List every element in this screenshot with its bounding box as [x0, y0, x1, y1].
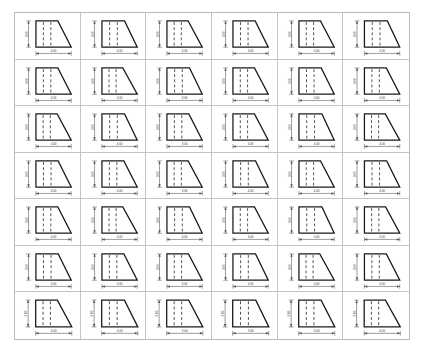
- trapezoid-outline: [299, 68, 334, 94]
- figure-cell: 3.004.00: [212, 246, 278, 293]
- height-dimension-label: 3.00: [156, 124, 160, 130]
- height-arrow-bottom: [92, 324, 95, 327]
- trapezoid-outline: [233, 207, 268, 233]
- height-arrow-top: [224, 301, 227, 304]
- width-arrow-right: [265, 52, 268, 55]
- figure-cell: 3.004.00: [343, 106, 409, 153]
- figure-cell: 3.004.00: [81, 153, 147, 200]
- height-arrow-top: [356, 21, 359, 24]
- trapezoid-drawing: 3.004.00: [81, 60, 146, 106]
- figure-cell: 3.004.00: [81, 13, 147, 60]
- figure-cell: 3.004.00: [278, 13, 344, 60]
- width-arrow-left: [233, 332, 236, 335]
- height-dimension-label: 3.00: [287, 217, 291, 223]
- trapezoid-drawing: 3.004.00: [212, 60, 277, 106]
- trapezoid-drawing: 3.003.00: [146, 106, 211, 152]
- height-dimension-label: 3.00: [287, 171, 291, 177]
- width-arrow-right: [200, 332, 203, 335]
- height-dimension-label: 3.00: [353, 264, 357, 270]
- trapezoid-outline: [102, 161, 137, 187]
- figure-cell: 3.004.00: [212, 199, 278, 246]
- width-dimension-label: 4.00: [248, 282, 254, 286]
- width-dimension-label: 4.00: [51, 235, 57, 239]
- width-arrow-left: [167, 99, 170, 102]
- width-arrow-left: [167, 238, 170, 241]
- width-arrow-left: [299, 285, 302, 288]
- trapezoid-outline: [365, 301, 401, 328]
- trapezoid-outline: [233, 301, 269, 328]
- height-arrow-top: [93, 254, 96, 257]
- height-arrow-bottom: [289, 324, 292, 327]
- width-arrow-right: [68, 99, 71, 102]
- trapezoid-outline: [365, 161, 400, 187]
- trapezoid-drawing: 3.004.00: [343, 153, 409, 199]
- height-arrow-bottom: [290, 91, 293, 94]
- trapezoid-outline: [36, 161, 71, 187]
- figure-cell: 3.004.00: [343, 292, 409, 339]
- height-dimension-label: 3.00: [155, 311, 159, 317]
- width-dimension-label: 4.00: [116, 189, 122, 193]
- width-arrow-right: [134, 99, 137, 102]
- height-arrow-top: [159, 161, 162, 164]
- width-dimension-label: 4.00: [116, 235, 122, 239]
- width-arrow-right: [68, 52, 71, 55]
- figure-cell: 3.004.00: [278, 199, 344, 246]
- width-dimension-label: 3.00: [182, 96, 188, 100]
- width-arrow-right: [68, 192, 71, 195]
- height-arrow-top: [290, 161, 293, 164]
- trapezoid-outline: [36, 207, 71, 233]
- height-arrow-bottom: [224, 184, 227, 187]
- height-arrow-top: [224, 21, 227, 24]
- width-dimension-label: 4.00: [248, 49, 254, 53]
- trapezoid-outline: [36, 254, 71, 280]
- width-dimension-label: 4.00: [313, 329, 319, 333]
- width-arrow-left: [233, 238, 236, 241]
- figure-cell: 3.003.00: [146, 153, 212, 200]
- width-dimension-label: 4.00: [116, 329, 122, 333]
- height-dimension-label: 3.00: [156, 217, 160, 223]
- trapezoid-outline: [36, 21, 71, 47]
- figure-cell: 3.004.00: [212, 106, 278, 153]
- trapezoid-outline: [298, 301, 334, 328]
- height-arrow-bottom: [356, 44, 359, 47]
- width-arrow-left: [36, 145, 39, 148]
- height-arrow-top: [356, 161, 359, 164]
- trapezoid-drawing: 3.003.00: [146, 292, 211, 339]
- trapezoid-drawing: 3.003.00: [212, 292, 277, 339]
- width-arrow-left: [299, 99, 302, 102]
- figure-cell: 3.004.00: [15, 199, 81, 246]
- width-arrow-left: [36, 285, 39, 288]
- height-arrow-top: [93, 207, 96, 210]
- width-arrow-right: [331, 145, 334, 148]
- trapezoid-outline: [233, 254, 268, 280]
- width-arrow-left: [365, 285, 368, 288]
- width-arrow-right: [331, 192, 334, 195]
- width-dimension-label: 4.00: [313, 235, 319, 239]
- width-arrow-right: [200, 52, 203, 55]
- trapezoid-drawing: 3.004.00: [343, 199, 409, 245]
- height-dimension-label: 3.00: [222, 31, 226, 37]
- width-dimension-label: 4.00: [182, 49, 188, 53]
- height-arrow-top: [356, 207, 359, 210]
- trapezoid-drawing: 3.004.00: [81, 246, 146, 292]
- width-dimension-label: 4.00: [51, 282, 57, 286]
- width-dimension-label: 4.00: [116, 282, 122, 286]
- height-dimension-label: 3.00: [25, 264, 29, 270]
- height-arrow-top: [93, 68, 96, 71]
- width-arrow-left: [365, 145, 368, 148]
- height-dimension-label: 3.00: [25, 31, 29, 37]
- figure-cell: 3.004.00: [81, 246, 147, 293]
- figure-cell: 3.004.00: [212, 13, 278, 60]
- figure-cell: 3.004.00: [212, 60, 278, 107]
- figure-cell: 3.004.00: [15, 153, 81, 200]
- figure-cell: 3.003.00: [212, 292, 278, 339]
- height-arrow-bottom: [356, 184, 359, 187]
- trapezoid-drawing: 3.004.00: [81, 199, 146, 245]
- width-arrow-right: [331, 99, 334, 102]
- figure-cell: 3.004.00: [146, 246, 212, 293]
- width-arrow-right: [134, 52, 137, 55]
- figure-cell: 3.004.00: [278, 292, 344, 339]
- width-arrow-left: [167, 192, 170, 195]
- width-dimension-label: 4.00: [380, 142, 386, 146]
- height-arrow-bottom: [356, 137, 359, 140]
